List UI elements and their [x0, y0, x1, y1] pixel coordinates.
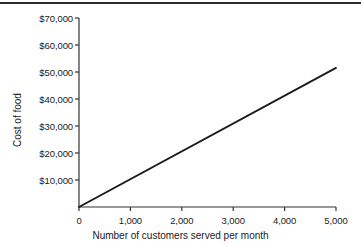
x-tick-label: 4,000: [273, 215, 296, 226]
x-tick-label: 0: [76, 215, 81, 226]
cost-of-food-line: [79, 68, 336, 207]
chart-figure: $10,000$20,000$30,000$40,000$50,000$60,0…: [0, 0, 361, 247]
y-axis-title: Cost of food: [12, 93, 23, 147]
x-axis-title: Number of customers served per month: [0, 230, 361, 241]
y-tick-label: $70,000: [10, 13, 73, 24]
x-tick-label: 3,000: [222, 215, 245, 226]
x-axis-ticks: [79, 207, 336, 211]
x-tick-label: 5,000: [324, 215, 347, 226]
x-tick-label: 1,000: [119, 215, 142, 226]
y-tick-label: $60,000: [10, 40, 73, 51]
x-tick-label: 2,000: [170, 215, 193, 226]
y-tick-label: $20,000: [10, 148, 73, 159]
y-tick-label: $10,000: [10, 175, 73, 186]
y-tick-label: $50,000: [10, 67, 73, 78]
